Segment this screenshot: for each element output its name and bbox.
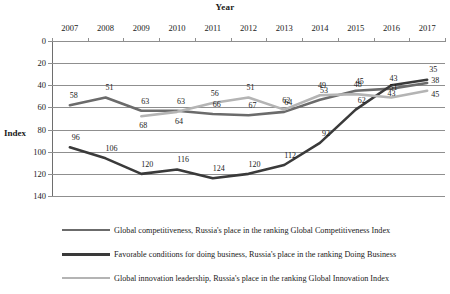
legend-swatch-0 [62, 229, 110, 231]
legend-swatch-2 [62, 277, 110, 279]
data-label-s2-2013: 62 [282, 97, 290, 105]
x-tick-label-2016: 2016 [371, 23, 411, 33]
data-label-s1-2010: 116 [177, 156, 189, 164]
y-tick-label-100: 100 [22, 147, 46, 157]
data-label-s0-2011: 66 [213, 101, 221, 109]
legend-label-2: Global innovation leadership, Russia's p… [114, 274, 389, 283]
data-label-s2-2015: 48 [354, 81, 362, 89]
x-tick-label-2017: 2017 [407, 23, 447, 33]
x-tick-label-2013: 2013 [264, 23, 304, 33]
x-tick-label-2011: 2011 [193, 23, 233, 33]
chart-root: Year Index 020406080100120140 2007200820… [0, 0, 450, 294]
data-label-s1-2012: 120 [249, 161, 261, 169]
chart-legend: Global competitiveness, Russia's place i… [0, 218, 450, 290]
legend-item-1[interactable]: Favorable conditions for doing business,… [0, 242, 450, 266]
plot-area: 020406080100120140 200720082009201020112… [52, 41, 445, 196]
y-tick-label-40: 40 [22, 80, 46, 90]
x-axis-title: Year [0, 2, 450, 12]
legend-item-2[interactable]: Global innovation leadership, Russia's p… [0, 266, 450, 290]
data-label-s0-2017: 38 [431, 77, 439, 85]
x-tick-label-2010: 2010 [157, 23, 197, 33]
data-label-s0-2008: 51 [106, 84, 114, 92]
data-label-s0-2016: 43 [389, 75, 397, 83]
data-label-s1-2017: 35 [429, 66, 437, 74]
y-tick-label-140: 140 [22, 191, 46, 201]
data-label-s2-2011: 56 [211, 90, 219, 98]
y-tick-label-60: 60 [22, 102, 46, 112]
data-label-s2-2017: 45 [431, 91, 439, 99]
y-tick-label-20: 20 [22, 58, 46, 68]
x-tick-label-2007: 2007 [50, 23, 90, 33]
data-label-s1-2015: 62 [358, 97, 366, 105]
data-label-s1-2009: 120 [141, 161, 153, 169]
x-tick-label-2015: 2015 [336, 23, 376, 33]
x-tick-label-2012: 2012 [229, 23, 269, 33]
legend-item-0[interactable]: Global competitiveness, Russia's place i… [0, 218, 450, 242]
data-label-s2-2010: 64 [175, 118, 183, 126]
y-tick-140 [48, 196, 52, 197]
data-label-s1-2007: 96 [72, 134, 80, 142]
data-label-s1-2011: 124 [213, 165, 225, 173]
x-tick-label-2009: 2009 [121, 23, 161, 33]
data-label-s0-2009: 63 [141, 98, 149, 106]
legend-swatch-1 [62, 253, 110, 256]
legend-label-0: Global competitiveness, Russia's place i… [114, 226, 390, 235]
y-tick-label-80: 80 [22, 125, 46, 135]
y-tick-label-0: 0 [22, 36, 46, 46]
data-label-s1-2008: 106 [106, 145, 118, 153]
data-label-s0-2010: 63 [177, 98, 185, 106]
x-tick-label-2014: 2014 [300, 23, 340, 33]
data-label-s2-2014: 49 [318, 82, 326, 90]
data-label-s1-2013: 112 [284, 152, 296, 160]
y-tick-label-120: 120 [22, 169, 46, 179]
legend-label-1: Favorable conditions for doing business,… [114, 250, 396, 259]
data-label-s1-2014: 92 [322, 130, 330, 138]
data-label-s0-2012: 67 [249, 102, 257, 110]
gridline-140 [52, 196, 445, 197]
data-label-s2-2012: 51 [247, 84, 255, 92]
data-label-s2-2016: 51 [389, 84, 397, 92]
data-label-s0-2007: 58 [70, 92, 78, 100]
x-tick-11 [445, 38, 446, 42]
series-lines [52, 41, 445, 196]
x-tick-label-2008: 2008 [86, 23, 126, 33]
data-label-s2-2009: 68 [139, 122, 147, 130]
